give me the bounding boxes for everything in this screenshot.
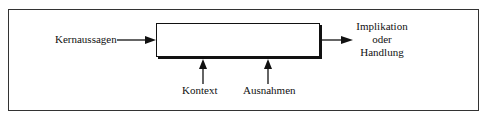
input-label: Kernaussagen bbox=[55, 33, 117, 46]
output-label-line-2: oder bbox=[352, 33, 412, 46]
output-label: Implikation oder Handlung bbox=[352, 20, 412, 59]
output-arrow-icon bbox=[322, 36, 353, 44]
exceptions-arrow-icon bbox=[264, 59, 272, 84]
arrows-layer bbox=[0, 0, 488, 116]
input-arrow-icon bbox=[117, 36, 156, 44]
context-arrow-icon bbox=[199, 59, 207, 84]
output-label-line-1: Implikation bbox=[352, 20, 412, 33]
output-label-line-3: Handlung bbox=[352, 46, 412, 59]
context-label: Kontext bbox=[182, 84, 217, 97]
exceptions-label: Ausnahmen bbox=[243, 84, 296, 97]
